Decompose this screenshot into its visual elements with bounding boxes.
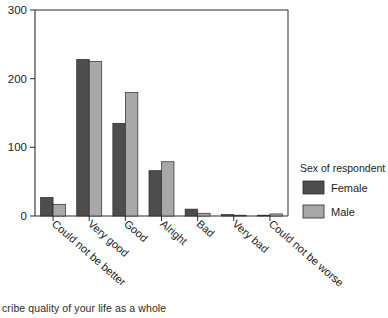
bar-female-1 xyxy=(77,59,90,216)
legend: Sex of respondent Female Male xyxy=(300,162,385,218)
bar-female-2 xyxy=(113,123,126,216)
bar-male-6 xyxy=(270,214,283,216)
bar-chart-figure: 300 200 100 0 Could not be betterVery go… xyxy=(0,0,388,318)
bar-female-3 xyxy=(149,171,162,216)
bar-male-5 xyxy=(234,215,247,216)
legend-swatch-female xyxy=(303,181,324,194)
bar-male-3 xyxy=(162,162,175,216)
bar-female-5 xyxy=(221,215,234,216)
y-tick-label-300: 300 xyxy=(8,4,27,16)
bar-male-0 xyxy=(53,204,66,216)
bar-male-2 xyxy=(125,92,138,216)
legend-label-female: Female xyxy=(331,182,368,194)
legend-swatch-male xyxy=(303,205,324,218)
bar-female-6 xyxy=(257,215,270,216)
bars-layer xyxy=(41,59,283,216)
bar-male-4 xyxy=(198,213,211,216)
x-tick-label-6: Could not be worse xyxy=(267,217,346,288)
y-tick-label-200: 200 xyxy=(8,73,27,85)
x-axis-labels: Could not be betterVery goodGoodAlrightB… xyxy=(50,217,346,288)
bar-female-0 xyxy=(41,197,54,216)
bar-male-1 xyxy=(89,62,102,217)
legend-label-male: Male xyxy=(331,206,355,218)
legend-title: Sex of respondent xyxy=(300,162,385,174)
y-tick-label-100: 100 xyxy=(8,141,27,153)
y-tick-label-0: 0 xyxy=(21,210,27,222)
y-axis: 300 200 100 0 xyxy=(8,4,35,222)
bar-female-4 xyxy=(185,209,198,216)
x-tick-label-5: Very bad xyxy=(230,217,271,255)
figure-caption: cribe quality of your life as a whole xyxy=(2,302,166,314)
x-tick-label-2: Good xyxy=(122,217,150,244)
chart-canvas: 300 200 100 0 Could not be betterVery go… xyxy=(0,0,388,318)
x-tick-label-3: Alright xyxy=(158,217,189,247)
